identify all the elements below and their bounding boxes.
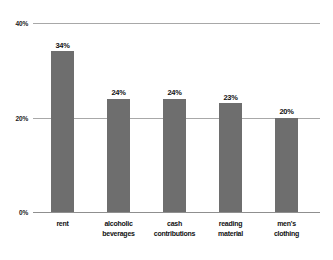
bar-value-cash-contributions: 24% (167, 88, 181, 97)
y-tick-label-20: 20% (16, 114, 28, 121)
bar-cash-contributions (163, 99, 186, 212)
bar-value-reading-material: 23% (223, 93, 237, 102)
bar-chart: 40% 20% 0% 34% 24% 24% 23% (0, 0, 333, 260)
x-axis-labels: rent alcoholic beverages cash contributi… (33, 219, 320, 255)
bar-value-rent: 34% (55, 41, 69, 50)
y-tick-label-40: 40% (16, 20, 28, 27)
bar-mens-clothing (275, 118, 298, 213)
y-tick-label-0: 0% (19, 209, 28, 216)
x-label-mens-clothing: men's clothing (252, 219, 322, 238)
bar-rent (51, 51, 74, 212)
bar-value-alcoholic-beverages: 24% (111, 88, 125, 97)
bar-alcoholic-beverages (107, 99, 130, 212)
bar-reading-material (219, 103, 242, 212)
gridline-0: 0% (33, 212, 320, 213)
bar-value-mens-clothing: 20% (279, 107, 293, 116)
plot-area: 40% 20% 0% 34% 24% 24% 23% (33, 23, 320, 212)
x-label-mens-clothing-line-2: clothing (252, 229, 322, 239)
bar-series: 34% 24% 24% 23% 20% (33, 23, 320, 212)
x-label-mens-clothing-line-1: men's (252, 219, 322, 229)
